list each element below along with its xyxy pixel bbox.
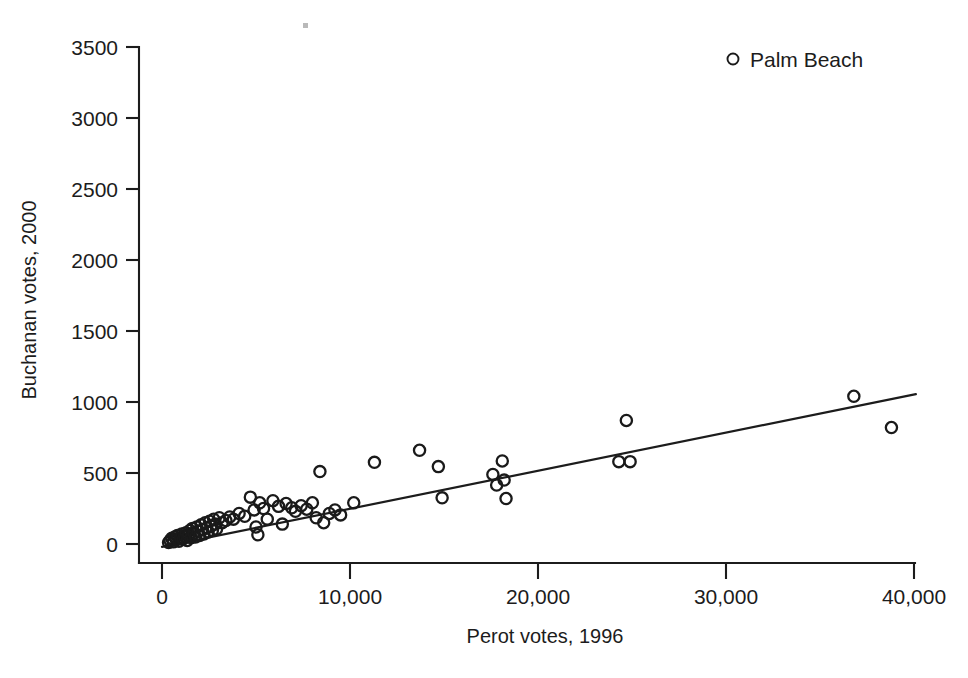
legend-open-circle-icon xyxy=(728,54,739,65)
data-point xyxy=(886,422,897,433)
legend-label-palm-beach: Palm Beach xyxy=(750,48,863,71)
legend: Palm Beach xyxy=(728,48,864,71)
y-tick-label-3000: 3000 xyxy=(71,107,118,130)
y-axis-ticks xyxy=(126,47,139,544)
y-tick-label-500: 500 xyxy=(83,462,118,485)
data-point xyxy=(625,456,636,467)
regression-line-group xyxy=(162,394,916,547)
scatter-plot-figure: 3500 3000 2500 2000 1500 1000 500 0 Buch… xyxy=(0,0,968,678)
x-axis: 0 10,000 20,000 30,000 40,000 Perot vote… xyxy=(139,563,946,647)
data-point xyxy=(500,493,511,504)
scan-artifact-speck xyxy=(303,23,308,28)
y-tick-label-1000: 1000 xyxy=(71,391,118,414)
y-axis: 3500 3000 2500 2000 1500 1000 500 0 Buch… xyxy=(18,36,139,563)
x-tick-label-0: 0 xyxy=(156,585,168,608)
y-tick-label-1500: 1500 xyxy=(71,320,118,343)
data-point xyxy=(348,497,359,508)
data-point xyxy=(613,456,624,467)
data-point xyxy=(437,492,448,503)
regression-fit-line xyxy=(162,394,916,547)
x-axis-title: Perot votes, 1996 xyxy=(467,625,624,647)
y-tick-label-2500: 2500 xyxy=(71,178,118,201)
y-axis-tick-labels: 3500 3000 2500 2000 1500 1000 500 0 xyxy=(71,36,118,556)
data-point xyxy=(252,529,263,540)
data-point xyxy=(314,466,325,477)
y-tick-label-2000: 2000 xyxy=(71,249,118,272)
data-point xyxy=(369,457,380,468)
x-tick-label-40000: 40,000 xyxy=(882,585,946,608)
x-tick-label-30000: 30,000 xyxy=(694,585,758,608)
data-point xyxy=(621,415,632,426)
data-point xyxy=(497,455,508,466)
data-point xyxy=(433,461,444,472)
y-axis-title: Buchanan votes, 2000 xyxy=(18,200,40,399)
y-tick-label-0: 0 xyxy=(106,533,118,556)
x-axis-ticks xyxy=(162,563,914,579)
chart-canvas: 3500 3000 2500 2000 1500 1000 500 0 Buch… xyxy=(0,0,968,678)
data-point xyxy=(848,391,859,402)
x-tick-label-10000: 10,000 xyxy=(318,585,382,608)
x-axis-tick-labels: 0 10,000 20,000 30,000 40,000 xyxy=(156,585,946,608)
x-tick-label-20000: 20,000 xyxy=(506,585,570,608)
data-point xyxy=(262,514,273,525)
data-point xyxy=(414,445,425,456)
y-tick-label-3500: 3500 xyxy=(71,36,118,59)
